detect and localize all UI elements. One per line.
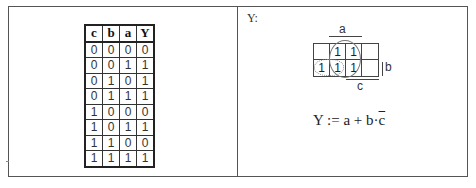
kmap-bar-a [329, 36, 362, 37]
header-c: c [85, 25, 103, 42]
cell: 0 [120, 42, 137, 58]
cell: 0 [120, 73, 137, 89]
cell: 0 [137, 135, 155, 151]
kmap-label-a: a [339, 22, 346, 36]
header-y: Y [137, 25, 155, 42]
outer-frame [8, 6, 468, 177]
truth-table-header: c b a Y [85, 25, 154, 42]
table-row: 1 0 1 1 [85, 120, 154, 136]
kmap-label-c: c [357, 79, 363, 93]
formula-plus: + [354, 112, 362, 128]
cell: 1 [120, 89, 137, 105]
table-row: 1 1 0 0 [85, 135, 154, 151]
cell: 0 [137, 104, 155, 120]
cell: 0 [120, 135, 137, 151]
cell: 0 [85, 42, 103, 58]
cell: 1 [85, 120, 103, 136]
table-row: 0 0 0 0 [85, 42, 154, 58]
cell: 1 [85, 135, 103, 151]
kmap-cell [362, 44, 378, 60]
cell: 1 [85, 104, 103, 120]
cell: 1 [120, 151, 137, 167]
margin-tick [6, 161, 9, 162]
cell: 0 [103, 58, 120, 74]
kmap-cell [362, 60, 378, 76]
cell: 1 [103, 135, 120, 151]
cell: 1 [103, 151, 120, 167]
header-b: b [103, 25, 120, 42]
header-a: a [120, 25, 137, 42]
formula-term-b: b [366, 112, 374, 128]
kmap-label-b: b [385, 60, 392, 74]
cell: 1 [120, 120, 137, 136]
cell: 1 [103, 73, 120, 89]
boolean-formula: Y := a + b·c [313, 112, 385, 129]
table-row: 1 0 0 0 [85, 104, 154, 120]
cell: 1 [137, 120, 155, 136]
kmap-cell [314, 44, 330, 60]
table-row: 0 1 1 1 [85, 89, 154, 105]
cell: 0 [103, 42, 120, 58]
cell: 1 [137, 89, 155, 105]
table-row: 0 0 1 1 [85, 58, 154, 74]
table-row: 1 1 1 1 [85, 151, 154, 167]
cell: 0 [137, 42, 155, 58]
cell: 1 [103, 89, 120, 105]
cell: 0 [85, 73, 103, 89]
cell: 0 [85, 58, 103, 74]
cell: 0 [85, 89, 103, 105]
cell: 1 [137, 58, 155, 74]
group-bc-dotted-circle [314, 59, 344, 76]
formula-assign: := [327, 112, 340, 128]
cell: 1 [137, 73, 155, 89]
cell: 0 [103, 104, 120, 120]
panel-divider [237, 6, 238, 177]
formula-lhs: Y [313, 112, 323, 128]
formula-term-not-c: c [379, 112, 386, 128]
cell: 1 [137, 151, 155, 167]
cell: 1 [85, 151, 103, 167]
cell: 0 [103, 120, 120, 136]
kmap-bar-b [382, 62, 383, 76]
formula-term-a: a [343, 112, 350, 128]
table-row: 0 1 0 1 [85, 73, 154, 89]
kmap-title: Y: [247, 11, 258, 26]
truth-table: c b a Y 0 0 0 0 0 0 1 1 0 1 0 1 0 1 1 1 [84, 24, 155, 168]
cell: 1 [120, 58, 137, 74]
cell: 0 [120, 104, 137, 120]
